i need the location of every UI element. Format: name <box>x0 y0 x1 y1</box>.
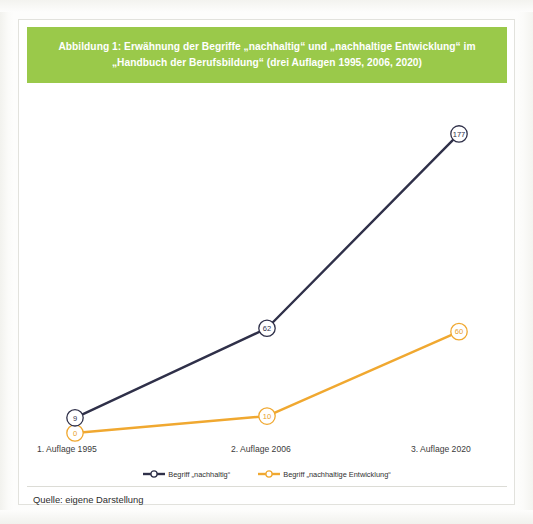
figure-container: Abbildung 1: Erwähnung der Begriffe „nac… <box>18 19 515 505</box>
figure-title: Abbildung 1: Erwähnung der Begriffe „nac… <box>27 39 507 71</box>
x-axis-labels: 1. Auflage 19952. Auflage 20063. Auflage… <box>27 444 507 460</box>
legend-label: Begriff „nachhaltige Entwicklung“ <box>283 470 391 479</box>
data-point-label: 62 <box>263 324 271 333</box>
series-nachhaltige-entwicklung: 01060 <box>67 323 467 441</box>
x-axis-label: 1. Auflage 1995 <box>37 444 97 454</box>
data-point-label: 0 <box>73 429 77 438</box>
figure-title-banner: Abbildung 1: Erwähnung der Begriffe „nac… <box>27 27 507 83</box>
scan-edge-top <box>0 0 533 12</box>
legend-item[interactable]: Begriff „nachhaltig“ <box>143 469 230 479</box>
line-chart-svg: 01060 962177 <box>27 90 507 445</box>
data-point-label: 60 <box>455 327 463 336</box>
legend-marker-icon <box>258 469 280 479</box>
data-point-label: 177 <box>453 130 466 139</box>
source-divider <box>27 486 507 487</box>
series-nachhaltig: 962177 <box>67 126 467 426</box>
chart-plot-area: 01060 962177 <box>27 90 507 445</box>
x-axis-label: 3. Auflage 2020 <box>411 444 471 454</box>
legend-label: Begriff „nachhaltig“ <box>168 470 230 479</box>
data-point-label: 10 <box>263 412 271 421</box>
scan-edge-bottom <box>0 510 533 524</box>
data-point-label: 9 <box>73 414 77 423</box>
chart-legend: Begriff „nachhaltig“Begriff „nachhaltige… <box>27 464 507 484</box>
scanned-page: Abbildung 1: Erwähnung der Begriffe „nac… <box>0 0 533 524</box>
scan-edge-right <box>517 0 533 524</box>
legend-marker-icon <box>143 469 165 479</box>
legend-item[interactable]: Begriff „nachhaltige Entwicklung“ <box>258 469 391 479</box>
scan-edge-left <box>0 0 14 524</box>
x-axis-label: 2. Auflage 2006 <box>231 444 291 454</box>
source-note: Quelle: eigene Darstellung <box>33 494 144 505</box>
series-line <box>75 134 459 418</box>
